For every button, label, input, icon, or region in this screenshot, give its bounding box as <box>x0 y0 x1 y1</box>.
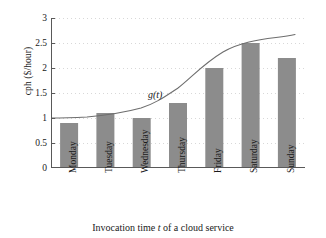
y-tick-label-0: 0 <box>21 164 47 174</box>
x-tick-label-sunday: Sunday <box>286 145 296 174</box>
x-tick-label-thursday: Thursday <box>177 137 187 173</box>
y-tick-label-2-5: 2.5 <box>21 39 47 49</box>
chart-figure: cph ($/hour) 3 2.5 2 1.5 1 0.5 0 <box>0 0 326 238</box>
y-tick-label-3: 3 <box>21 14 47 24</box>
x-axis-title: Invocation time t of a cloud service <box>0 222 326 233</box>
x-tick-label-tuesday: Tuesday <box>104 141 114 173</box>
y-tick-label-1: 1 <box>21 114 47 124</box>
y-tick-label-0-5: 0.5 <box>21 139 47 149</box>
x-axis-title-prefix: Invocation time <box>92 222 158 233</box>
x-tick-label-friday: Friday <box>213 148 223 173</box>
x-tick-label-saturday: Saturday <box>249 139 259 173</box>
x-axis-title-suffix: of a cloud service <box>161 222 234 233</box>
x-tick-label-wednesday: Wednesday <box>140 129 150 173</box>
y-tick-label-2: 2 <box>21 64 47 74</box>
x-tick-label-monday: Monday <box>68 141 78 173</box>
y-tick-label-1-5: 1.5 <box>21 89 47 99</box>
trend-line-annotation: g(t) <box>148 89 162 100</box>
